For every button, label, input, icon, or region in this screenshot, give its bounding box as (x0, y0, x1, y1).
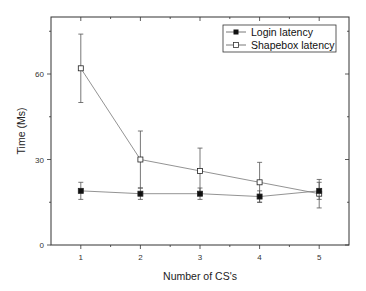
open-square-marker (78, 66, 83, 71)
x-tick-label: 4 (257, 253, 262, 262)
line-chart: 1234503060 Number of CS's Time (Ms) Logi… (0, 0, 366, 291)
filled-square-marker (138, 191, 143, 196)
filled-square-marker (78, 188, 83, 193)
open-square-marker-icon (234, 43, 239, 48)
data-series (78, 34, 321, 208)
y-tick-label: 0 (40, 241, 45, 250)
axis-ticks: 1234503060 (35, 17, 349, 262)
filled-square-marker (198, 191, 203, 196)
open-square-marker (138, 157, 143, 162)
filled-square-marker-icon (234, 30, 239, 35)
x-axis-label: Number of CS's (163, 270, 237, 282)
filled-square-marker (257, 194, 262, 199)
y-tick-label: 30 (35, 156, 44, 165)
x-tick-label: 3 (198, 253, 203, 262)
series-shapebox-latency (78, 34, 321, 208)
filled-square-marker (317, 188, 322, 193)
open-square-marker (257, 180, 262, 185)
x-tick-label: 2 (138, 253, 143, 262)
legend: Login latency Shapebox latency (223, 25, 336, 52)
x-tick-label: 1 (79, 253, 84, 262)
x-tick-label: 5 (317, 253, 322, 262)
y-tick-label: 60 (35, 70, 44, 79)
open-square-marker (198, 168, 203, 173)
y-axis-label: Time (Ms) (15, 108, 27, 155)
legend-label-login: Login latency (251, 26, 314, 38)
legend-label-shapebox: Shapebox latency (251, 39, 335, 51)
